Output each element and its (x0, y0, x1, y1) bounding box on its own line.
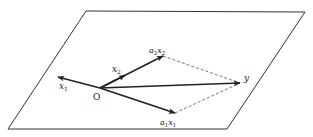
vector-x2 (100, 75, 125, 88)
plane-parallelogram (8, 11, 305, 129)
label-a2x2: a2x2 (149, 46, 165, 56)
label-a1x1: a1x1 (160, 118, 176, 128)
projection-diagram: O x1 x2 a2x2 a1x1 y (0, 0, 313, 137)
label-x2: x2 (112, 64, 121, 75)
label-y: y (243, 73, 250, 83)
vector-y (100, 83, 240, 88)
dashed-edge-a1x1-to-y (175, 83, 240, 113)
dashed-edge-a2x2-to-y (163, 56, 240, 83)
label-x1: x1 (59, 81, 68, 92)
label-origin: O (93, 92, 100, 102)
vector-a1x1 (100, 88, 175, 113)
